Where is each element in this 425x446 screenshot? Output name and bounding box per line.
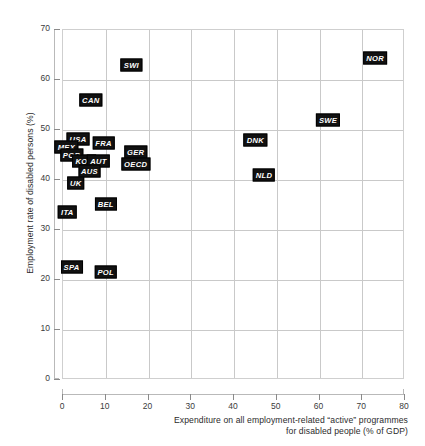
x-tick-label: 30 bbox=[178, 401, 202, 411]
gridline-horizontal bbox=[63, 180, 403, 181]
y-tick-label: 30 bbox=[26, 223, 50, 233]
x-tick-mark bbox=[233, 394, 234, 400]
gridline-vertical bbox=[191, 30, 192, 378]
y-tick-mark bbox=[54, 229, 60, 230]
data-point-uk: UK bbox=[67, 177, 85, 190]
y-tick-mark bbox=[54, 29, 60, 30]
y-tick-label: 50 bbox=[26, 123, 50, 133]
data-point-ita: ITA bbox=[58, 205, 77, 218]
x-tick-mark bbox=[361, 394, 362, 400]
gridline-horizontal bbox=[63, 230, 403, 231]
scatter-chart-figure: Employment rate of disabled persons (%) … bbox=[0, 0, 425, 446]
x-tick-mark bbox=[276, 394, 277, 400]
gridline-horizontal bbox=[63, 130, 403, 131]
data-point-nor: NOR bbox=[363, 51, 387, 64]
x-tick-label: 80 bbox=[392, 401, 416, 411]
y-axis-title: Employment rate of disabled persons (%) bbox=[25, 13, 35, 373]
x-tick-label: 70 bbox=[349, 401, 373, 411]
data-point-swi: SWI bbox=[121, 59, 142, 72]
x-tick-label: 10 bbox=[93, 401, 117, 411]
gridline-horizontal bbox=[63, 80, 403, 81]
x-tick-mark bbox=[62, 394, 63, 400]
y-tick-label: 40 bbox=[26, 173, 50, 183]
data-point-spa: SPA bbox=[61, 261, 83, 274]
data-point-pol: POL bbox=[94, 265, 117, 278]
data-point-nld: NLD bbox=[253, 169, 276, 182]
x-tick-label: 40 bbox=[221, 401, 245, 411]
data-point-swe: SWE bbox=[316, 114, 340, 127]
y-axis-spine bbox=[54, 29, 55, 379]
x-axis-title-line-1: Expenditure on all employment-related “a… bbox=[48, 415, 408, 426]
y-tick-label: 10 bbox=[26, 323, 50, 333]
data-point-aus: AUS bbox=[78, 164, 101, 177]
y-tick-mark bbox=[54, 129, 60, 130]
data-point-fra: FRA bbox=[92, 137, 115, 150]
gridline-vertical bbox=[277, 30, 278, 378]
x-tick-label: 50 bbox=[264, 401, 288, 411]
y-tick-mark bbox=[54, 329, 60, 330]
y-tick-label: 20 bbox=[26, 273, 50, 283]
y-tick-mark bbox=[54, 279, 60, 280]
y-tick-label: 60 bbox=[26, 73, 50, 83]
data-point-bel: BEL bbox=[95, 198, 117, 211]
data-point-dnk: DNK bbox=[244, 134, 267, 147]
x-tick-label: 20 bbox=[136, 401, 160, 411]
x-tick-label: 60 bbox=[307, 401, 331, 411]
plot-area: SWINORCANSWEUSADNKFRAMEXGERPORKORAUTOECD… bbox=[62, 29, 404, 379]
x-axis-title-line-2: for disabled people (% of GDP) bbox=[48, 426, 408, 437]
y-tick-label: 0 bbox=[26, 373, 50, 383]
y-tick-mark bbox=[54, 79, 60, 80]
y-tick-mark bbox=[54, 379, 60, 380]
gridline-horizontal bbox=[63, 330, 403, 331]
gridline-vertical bbox=[362, 30, 363, 378]
x-tick-mark bbox=[148, 394, 149, 400]
gridline-vertical bbox=[234, 30, 235, 378]
x-tick-mark bbox=[319, 394, 320, 400]
gridline-horizontal bbox=[63, 280, 403, 281]
gridline-vertical bbox=[320, 30, 321, 378]
y-tick-label: 70 bbox=[26, 23, 50, 33]
x-tick-mark bbox=[105, 394, 106, 400]
gridline-vertical bbox=[149, 30, 150, 378]
data-point-oecd: OECD bbox=[121, 158, 150, 171]
x-tick-mark bbox=[190, 394, 191, 400]
x-tick-mark bbox=[404, 394, 405, 400]
x-axis-title: Expenditure on all employment-related “a… bbox=[48, 415, 408, 437]
x-tick-label: 0 bbox=[50, 401, 74, 411]
y-tick-mark bbox=[54, 179, 60, 180]
data-point-can: CAN bbox=[79, 94, 102, 107]
